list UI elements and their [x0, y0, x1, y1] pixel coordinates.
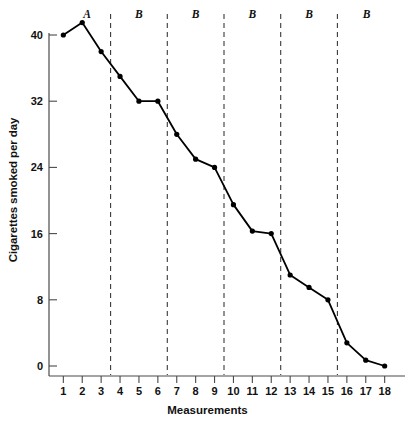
data-point-9	[212, 165, 217, 170]
data-point-1	[61, 32, 66, 37]
x-tick-label-16: 16	[341, 385, 353, 397]
data-point-14	[306, 285, 311, 290]
phase-label-2: B	[134, 8, 143, 20]
chart-container: Cigarettes smoked per day 0816243240 123…	[0, 0, 415, 428]
data-point-16	[344, 340, 349, 345]
x-tick-label-4: 4	[117, 385, 124, 397]
phase-label-5: B	[304, 8, 313, 20]
phase-label-4: B	[248, 8, 257, 20]
y-tick-label-0: 0	[37, 360, 43, 372]
data-point-2	[80, 20, 85, 25]
y-tick-group: 0816243240	[31, 29, 57, 372]
x-tick-label-13: 13	[284, 385, 296, 397]
x-tick-label-14: 14	[303, 385, 316, 397]
x-tick-label-2: 2	[79, 385, 85, 397]
data-point-7	[174, 132, 179, 137]
phase-label-3: B	[191, 8, 200, 20]
x-tick-label-1: 1	[60, 385, 66, 397]
data-point-12	[269, 231, 274, 236]
x-tick-label-10: 10	[227, 385, 239, 397]
y-tick-label-24: 24	[31, 161, 44, 173]
x-tick-label-5: 5	[136, 385, 142, 397]
x-tick-label-18: 18	[379, 385, 391, 397]
x-tick-group: 123456789101112131415161718	[60, 376, 391, 397]
y-tick-label-16: 16	[31, 228, 43, 240]
data-point-11	[250, 229, 255, 234]
data-point-15	[325, 297, 330, 302]
x-axis-title: Measurements	[0, 404, 415, 416]
axes-group	[49, 33, 405, 376]
data-point-10	[231, 202, 236, 207]
x-tick-label-9: 9	[211, 385, 217, 397]
x-tick-label-12: 12	[265, 385, 277, 397]
phase-divider-group	[111, 14, 338, 375]
data-point-8	[193, 157, 198, 162]
line-chart-plot: 0816243240 123456789101112131415161718 A…	[0, 0, 415, 428]
y-tick-label-32: 32	[31, 95, 43, 107]
phase-label-group: ABBBBB	[82, 8, 371, 20]
data-point-6	[155, 99, 160, 104]
data-point-13	[288, 272, 293, 277]
x-tick-label-6: 6	[155, 385, 161, 397]
data-point-17	[363, 358, 368, 363]
phase-label-6: B	[362, 8, 371, 20]
phase-label-1: A	[82, 8, 91, 20]
data-point-18	[382, 363, 387, 368]
x-tick-label-11: 11	[247, 385, 259, 397]
x-tick-label-8: 8	[193, 385, 199, 397]
x-tick-label-7: 7	[174, 385, 180, 397]
y-tick-label-8: 8	[37, 294, 43, 306]
data-point-3	[99, 49, 104, 54]
data-point-4	[117, 74, 122, 79]
data-point-5	[136, 99, 141, 104]
x-tick-label-15: 15	[322, 385, 334, 397]
x-tick-label-17: 17	[360, 385, 372, 397]
y-tick-label-40: 40	[31, 29, 43, 41]
x-tick-label-3: 3	[98, 385, 104, 397]
